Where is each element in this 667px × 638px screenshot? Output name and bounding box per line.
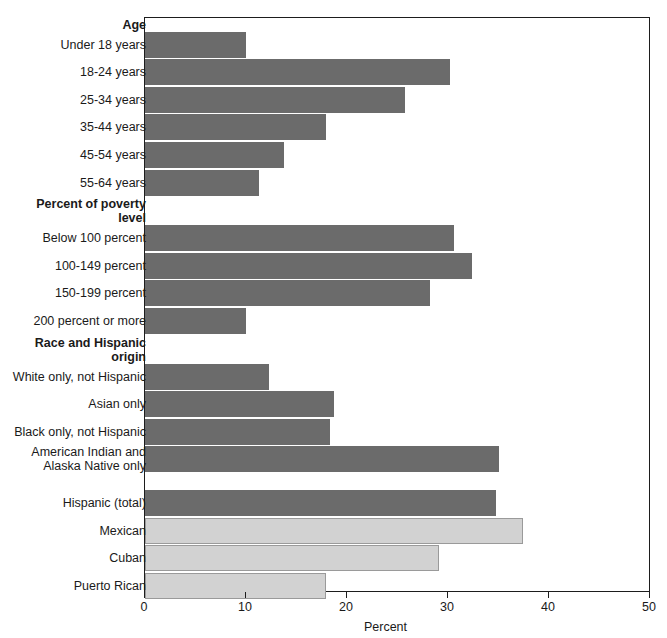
bar-row-black-only-not-hispanic: Black only, not Hispanic (0, 419, 667, 445)
bar-row-puerto-rican: Puerto Rican (0, 573, 667, 599)
x-tick-label-50: 50 (629, 600, 667, 614)
bar-row-100-149-percent: 100-149 percent (0, 253, 667, 279)
bar-row-label: 150-199 percent (0, 286, 146, 300)
bar-row-label: Asian only (0, 397, 146, 411)
x-tick-label-30: 30 (427, 600, 467, 614)
bar-row-mexican: Mexican (0, 518, 667, 544)
x-tick-0 (144, 592, 145, 598)
x-tick-label-20: 20 (326, 600, 366, 614)
x-tick-label-40: 40 (528, 600, 568, 614)
bar-row-200-percent-or-more: 200 percent or more (0, 308, 667, 334)
bar-row-cuban: Cuban (0, 545, 667, 571)
bar-row-white-only-not-hispanic: White only, not Hispanic (0, 364, 667, 390)
bar-row-hispanic-total: Hispanic (total) (0, 490, 667, 516)
bar-row-below-100-percent: Below 100 percent (0, 225, 667, 251)
x-tick-10 (245, 592, 246, 598)
x-tick-50 (649, 592, 650, 598)
bar-row-55-64-years: 55-64 years (0, 170, 667, 196)
bar-row-label: 45-54 years (0, 148, 146, 162)
group-header-label: Race and Hispanic origin (0, 336, 146, 364)
bar-row-asian-only: Asian only (0, 391, 667, 417)
group-header-age: Age (0, 18, 667, 32)
bar-row-label: 200 percent or more (0, 314, 146, 328)
x-tick-label-0: 0 (124, 600, 164, 614)
bar-row-45-54-years: 45-54 years (0, 142, 667, 168)
bar-row-label: 35-44 years (0, 120, 146, 134)
x-tick-30 (447, 592, 448, 598)
bar-row-label: Mexican (0, 524, 146, 538)
bar-row-label: 18-24 years (0, 65, 146, 79)
bar-row-label: Hispanic (total) (0, 496, 146, 510)
bar-row-label: 100-149 percent (0, 259, 146, 273)
bar-row-150-199-percent: 150-199 percent (0, 280, 667, 306)
group-header-percent-of-poverty-level: Percent of poverty level (0, 197, 667, 225)
bar-row-label: American Indian and Alaska Native only (0, 445, 146, 473)
bar-row-label: Cuban (0, 551, 146, 565)
bar-row-label: Black only, not Hispanic (0, 425, 146, 439)
group-header-label: Percent of poverty level (0, 197, 146, 225)
x-tick-label-10: 10 (225, 600, 265, 614)
x-axis-title-text: Percent (364, 620, 407, 634)
bar-row-label: Under 18 years (0, 38, 146, 52)
bar-row-18-24-years: 18-24 years (0, 59, 667, 85)
bar-row-35-44-years: 35-44 years (0, 114, 667, 140)
x-axis-title: Percent (0, 620, 667, 634)
bar-row-american-indian-and-alaska-native-only: American Indian and Alaska Native only (0, 446, 667, 472)
bar-row-label: White only, not Hispanic (0, 370, 146, 384)
group-header-race-and-hispanic-origin: Race and Hispanic origin (0, 336, 667, 364)
x-tick-20 (346, 592, 347, 598)
group-header-label: Age (0, 18, 146, 32)
bar-row-label: 55-64 years (0, 176, 146, 190)
bar-row-label: 25-34 years (0, 93, 146, 107)
bar-row-label: Puerto Rican (0, 579, 146, 593)
bar-row-25-34-years: 25-34 years (0, 87, 667, 113)
horizontal-bar-chart: AgeUnder 18 years18-24 years25-34 years3… (0, 0, 667, 638)
bar-row-label: Below 100 percent (0, 231, 146, 245)
bar-row-under-18-years: Under 18 years (0, 32, 667, 58)
bar-rows-layer: AgeUnder 18 years18-24 years25-34 years3… (0, 0, 667, 638)
x-tick-40 (548, 592, 549, 598)
